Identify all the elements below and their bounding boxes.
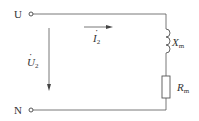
inductor-symbol: X: [172, 36, 179, 48]
current-subscript: 2: [97, 38, 101, 46]
resistor-label: Rm: [177, 82, 189, 95]
voltage-symbol: U: [27, 56, 35, 68]
voltage-subscript: 2: [35, 62, 39, 70]
inductor-label: Xm: [172, 37, 184, 50]
terminal-n-circle: [29, 108, 33, 112]
terminal-u-circle: [29, 12, 33, 16]
terminal-u-label: U: [14, 9, 22, 20]
current-arrow-head: [106, 25, 113, 29]
inductor-subscript: m: [179, 42, 184, 50]
voltage-label: U2: [27, 57, 38, 70]
resistor-icon: [162, 76, 170, 98]
inductor-icon: [166, 29, 170, 53]
resistor-subscript: m: [184, 87, 189, 95]
current-label: I2: [93, 33, 100, 46]
voltage-arrow-head: [47, 84, 51, 91]
resistor-symbol: R: [177, 81, 184, 93]
current-symbol: I: [93, 32, 97, 44]
terminal-n-label: N: [14, 105, 22, 116]
